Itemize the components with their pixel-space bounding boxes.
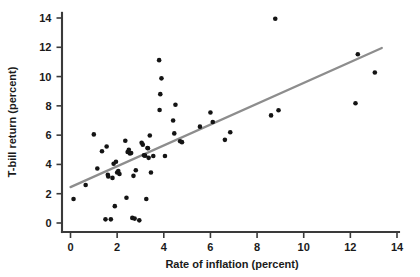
data-point [131, 174, 136, 179]
data-point [159, 76, 164, 81]
x-tick-label: 6 [207, 241, 213, 253]
y-tick-label: 8 [45, 100, 51, 112]
scatter-chart-figure: 0246810121402468101214 Rate of inflation… [0, 0, 420, 277]
data-point [92, 132, 97, 137]
plot-canvas: 0246810121402468101214 Rate of inflation… [0, 0, 420, 277]
data-point [373, 70, 378, 75]
y-tick-label: 6 [45, 129, 51, 141]
data-point [180, 140, 185, 145]
x-tick-label: 10 [298, 241, 310, 253]
data-point [109, 217, 114, 222]
data-point [144, 197, 149, 202]
data-point [223, 138, 228, 143]
data-point [356, 52, 361, 57]
x-tick-label: 14 [391, 241, 404, 253]
data-point [149, 170, 154, 175]
data-point [228, 130, 233, 135]
data-point [158, 92, 163, 97]
y-tick-label: 4 [45, 158, 52, 170]
x-tick-label: 8 [254, 241, 260, 253]
x-tick-label: 4 [161, 241, 168, 253]
x-tick-label: 12 [344, 241, 356, 253]
data-point [146, 156, 151, 161]
data-point [171, 118, 176, 123]
data-point [106, 174, 111, 179]
data-point [95, 166, 100, 171]
data-point [110, 176, 115, 181]
data-point [353, 101, 358, 106]
data-point [147, 133, 152, 138]
data-point [113, 204, 118, 209]
data-point [208, 110, 213, 115]
data-point [172, 131, 177, 136]
trend-line [71, 48, 382, 187]
trend-line-group [71, 48, 382, 187]
data-point [210, 120, 215, 125]
data-point [100, 149, 105, 154]
data-point [276, 108, 281, 113]
data-point [132, 216, 137, 221]
y-tick-label: 10 [39, 71, 51, 83]
y-tick-label: 2 [45, 188, 51, 200]
data-point [273, 16, 278, 21]
data-point [71, 197, 76, 202]
data-point [157, 108, 162, 113]
data-point [114, 159, 119, 164]
data-point [117, 172, 122, 177]
x-axis-title: Rate of inflation (percent) [165, 258, 299, 270]
x-tick-label: 0 [67, 241, 73, 253]
data-point [103, 217, 108, 222]
data-point [104, 144, 109, 149]
data-point [163, 154, 168, 159]
y-tick-label: 14 [39, 12, 52, 24]
data-point [151, 154, 156, 159]
y-tick-label: 0 [45, 217, 51, 229]
data-point [124, 196, 129, 201]
data-point [123, 138, 128, 143]
data-point [140, 142, 145, 147]
y-tick-label: 12 [39, 41, 51, 53]
data-point [134, 168, 139, 173]
axes-group [62, 13, 399, 232]
data-point [157, 58, 162, 63]
data-point [137, 218, 142, 223]
y-axis-title: T-bill return (percent) [6, 66, 18, 177]
data-point [173, 102, 178, 107]
tick-marks-group [57, 18, 398, 238]
data-point [198, 124, 203, 129]
data-point [129, 151, 134, 156]
data-point [146, 146, 151, 151]
x-tick-label: 2 [114, 241, 120, 253]
data-point [269, 113, 274, 118]
data-point [83, 183, 88, 188]
